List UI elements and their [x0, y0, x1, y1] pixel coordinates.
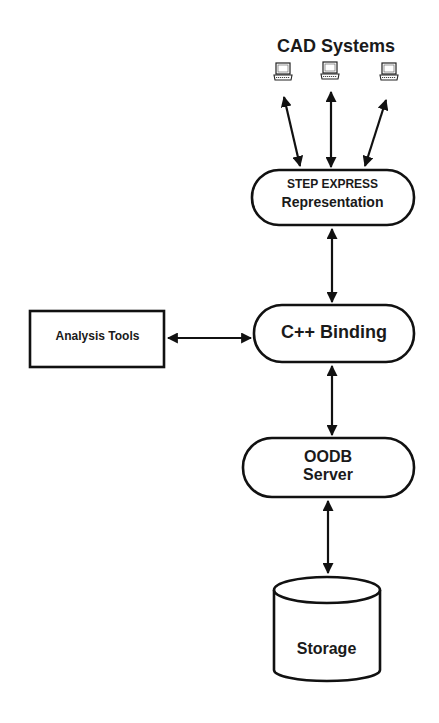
laptop-icon — [321, 62, 339, 79]
arrow-laptop1-step — [284, 97, 300, 166]
diagram-canvas — [0, 0, 439, 723]
oodb-line2: Server — [242, 466, 414, 484]
step-express-label: STEP EXPRESS Representation — [251, 178, 414, 210]
storage-cylinder-icon — [274, 577, 380, 681]
cpp-binding-label: C++ Binding — [253, 322, 415, 343]
storage-label: Storage — [273, 640, 380, 658]
analysis-tools-label: Analysis Tools — [30, 330, 165, 344]
step-express-line2: Representation — [251, 194, 414, 210]
cad-systems-title: CAD Systems — [246, 36, 426, 57]
laptop-icon — [274, 63, 292, 80]
laptop-icon — [380, 63, 398, 80]
step-express-line1: STEP EXPRESS — [251, 178, 414, 192]
oodb-server-label: OODB Server — [242, 448, 414, 485]
oodb-line1: OODB — [242, 448, 414, 466]
arrow-laptop3-step — [365, 100, 386, 166]
